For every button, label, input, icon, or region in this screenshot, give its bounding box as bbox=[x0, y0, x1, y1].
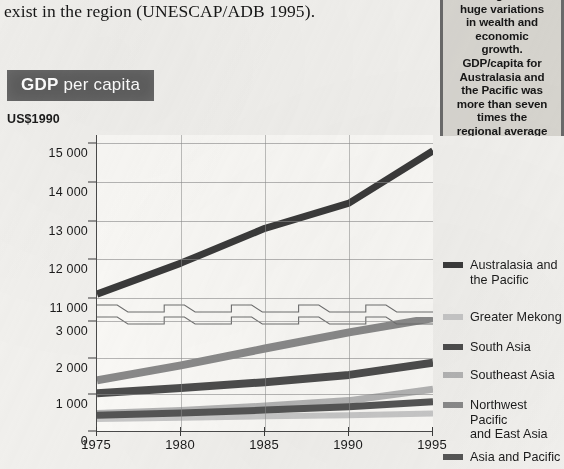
gdp-per-capita-chart: 15 00014 00013 00012 00011 0003 0002 000… bbox=[0, 125, 470, 450]
y-axis-tick-label: 2 000 bbox=[4, 361, 88, 375]
y-axis-tick-label: 13 000 bbox=[4, 224, 88, 238]
y-axis-tick-mark bbox=[88, 394, 96, 395]
vertical-gridline bbox=[265, 135, 266, 431]
legend-label: Southeast Asia bbox=[470, 368, 555, 383]
legend-swatch bbox=[443, 372, 463, 378]
y-axis-tick-mark bbox=[88, 143, 96, 144]
legend-item[interactable]: Asia and Pacific bbox=[443, 450, 560, 465]
legend-item[interactable]: Australasia and the Pacific bbox=[443, 258, 558, 287]
y-axis-labels: 15 00014 00013 00012 00011 0003 0002 000… bbox=[0, 135, 88, 431]
x-axis-labels: 19751980198519901995 bbox=[96, 437, 432, 459]
plot-area bbox=[96, 135, 433, 432]
legend-swatch bbox=[443, 314, 463, 320]
chart-title-rest: per capita bbox=[58, 75, 140, 94]
legend-label: Australasia and the Pacific bbox=[470, 258, 558, 287]
body-paragraph: exist in the region (UNESCAP/ADB 1995). bbox=[4, 1, 394, 22]
y-axis-tick-mark bbox=[88, 181, 96, 182]
x-axis-tick-label: 1980 bbox=[165, 437, 195, 452]
y-axis-tick-label: 15 000 bbox=[4, 146, 88, 160]
x-axis-tick-label: 1990 bbox=[333, 437, 363, 452]
y-axis-unit-label: US$1990 bbox=[7, 112, 60, 126]
y-axis-tick-label: 12 000 bbox=[4, 262, 88, 276]
y-axis-tick-mark bbox=[88, 431, 96, 432]
y-axis-tick-label: 3 000 bbox=[4, 324, 88, 338]
y-axis-tick-mark bbox=[88, 220, 96, 221]
x-axis-tick-label: 1975 bbox=[81, 437, 111, 452]
vertical-gridline bbox=[349, 135, 350, 431]
x-axis-tick-mark bbox=[348, 427, 349, 436]
y-axis-tick-label: 1 000 bbox=[4, 397, 88, 411]
legend-label: Greater Mekong bbox=[470, 310, 562, 325]
legend-item[interactable]: Southeast Asia bbox=[443, 368, 555, 383]
y-axis-tick-mark bbox=[88, 259, 96, 260]
y-axis-tick-label: 0 bbox=[4, 434, 88, 448]
sidebar-pullquote: The region has huge variations in wealth… bbox=[440, 0, 564, 136]
legend-swatch bbox=[443, 344, 463, 350]
y-axis-tick-label: 11 000 bbox=[4, 301, 88, 315]
legend-label: Asia and Pacific bbox=[470, 450, 560, 465]
y-axis-tick-label: 14 000 bbox=[4, 185, 88, 199]
y-axis-tick-mark bbox=[88, 321, 96, 322]
legend-item[interactable]: South Asia bbox=[443, 340, 531, 355]
vertical-gridline bbox=[181, 135, 182, 431]
x-axis-tick-mark bbox=[264, 427, 265, 436]
x-axis-tick-mark bbox=[180, 427, 181, 436]
legend-item[interactable]: Greater Mekong bbox=[443, 310, 562, 325]
x-axis-tick-mark bbox=[432, 427, 433, 436]
legend-swatch bbox=[443, 402, 463, 408]
chart-title-banner: GDP per capita bbox=[7, 70, 154, 101]
legend-label: South Asia bbox=[470, 340, 531, 355]
legend-swatch bbox=[443, 262, 463, 268]
legend-swatch bbox=[443, 454, 463, 460]
legend-label: Northwest Pacific and East Asia bbox=[470, 398, 564, 442]
sidebar-pullquote-text: The region has huge variations in wealth… bbox=[449, 0, 555, 136]
y-axis-tick-mark bbox=[88, 357, 96, 358]
x-axis-tick-label: 1985 bbox=[249, 437, 279, 452]
chart-title-strong: GDP bbox=[21, 75, 58, 94]
x-axis-tick-mark bbox=[96, 427, 97, 436]
y-axis-tick-mark bbox=[88, 298, 96, 299]
legend-item[interactable]: Northwest Pacific and East Asia bbox=[443, 398, 564, 442]
